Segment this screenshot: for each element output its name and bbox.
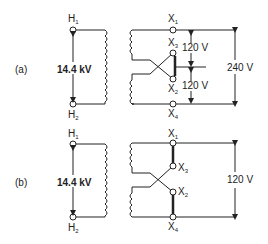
primary-voltage-a: 14.4 kV [57, 65, 91, 75]
terminal-x1-a [170, 27, 176, 33]
label-x2-a: X2 [168, 84, 178, 95]
label-x1-b: X1 [168, 129, 178, 140]
label-x3-a: X3 [168, 38, 178, 49]
terminal-x2-a [170, 76, 176, 82]
label-x2-b: X2 [178, 187, 188, 198]
terminal-h2-a [70, 101, 76, 107]
label-h2-b: H2 [68, 223, 79, 234]
lower-voltage-a: 120 V [182, 81, 208, 91]
label-x4-a: X4 [168, 109, 178, 120]
total-voltage-a: 240 V [227, 63, 253, 73]
primary-voltage-b: 14.4 kV [57, 178, 91, 188]
terminal-h1-b [70, 141, 76, 147]
panel-label-a: (a) [15, 65, 27, 75]
terminal-x2-b [170, 189, 176, 195]
transformer-diagram [0, 0, 268, 244]
terminal-h2-b [70, 214, 76, 220]
terminal-x4-a [170, 101, 176, 107]
terminal-x4-b [170, 214, 176, 220]
panel-a [70, 27, 235, 107]
panel-b [70, 140, 235, 220]
label-h1-a: H1 [68, 14, 79, 25]
terminal-x3-b [170, 163, 176, 169]
label-x3-b: X3 [178, 163, 188, 174]
label-h1-b: H1 [68, 129, 79, 140]
upper-voltage-a: 120 V [182, 43, 208, 53]
label-x4-b: X4 [168, 222, 178, 233]
total-voltage-b: 120 V [227, 175, 253, 185]
secondary-winding-a [130, 27, 235, 107]
label-h2-a: H2 [68, 110, 79, 121]
panel-label-b: (b) [15, 178, 27, 188]
label-x1-a: X1 [168, 14, 178, 25]
terminal-h1-a [70, 27, 76, 33]
terminal-x1-b [170, 140, 176, 146]
secondary-winding-b [130, 140, 235, 220]
terminal-x3-a [170, 50, 176, 56]
